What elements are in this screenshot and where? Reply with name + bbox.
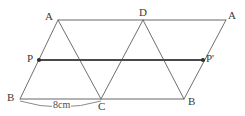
vertex-label-a-top-right: A [228,10,236,21]
vertex-label-b-bottom-right: B [188,96,195,107]
vertex-label-p-mid-left: P [27,53,33,64]
geometry-figure: A D A P P' B C B 8cm [0,0,245,116]
vertex-label-a-top-left: A [45,11,53,22]
measurement-label-bc: 8cm [52,100,71,110]
vertex-label-d-top-mid: D [139,7,147,18]
dot-p [37,58,41,62]
vertex-label-p-prime-mid-right: P' [206,53,214,64]
vertex-label-b-bottom-left: B [7,92,14,103]
dot-p-prime [201,58,205,62]
vertex-label-c-bottom-mid: C [98,101,105,112]
